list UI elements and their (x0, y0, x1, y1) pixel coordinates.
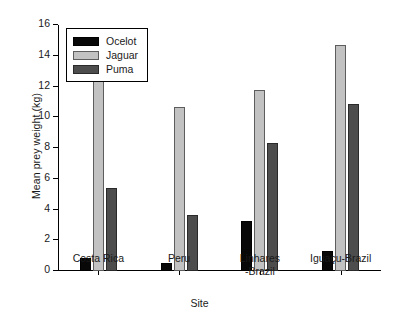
x-tick (341, 271, 342, 275)
x-tick-label: Iguaçu-Brazil (281, 252, 399, 265)
y-tick: 2 (53, 239, 58, 240)
bar-jaguar-1 (174, 107, 185, 272)
y-tick-label: 4 (44, 202, 50, 214)
y-tick-label: 16 (38, 17, 50, 29)
legend-label-ocelot: Ocelot (106, 35, 136, 47)
y-tick: 0 (53, 270, 58, 271)
bar-chart-figure: Mean prey weight (kg) 0246810121416 Cost… (0, 0, 399, 331)
y-tick-label: 0 (44, 263, 50, 275)
legend-swatch-icon-ocelot (73, 37, 99, 46)
x-tick (98, 271, 99, 275)
x-tick (179, 271, 180, 275)
y-tick-label: 6 (44, 171, 50, 183)
legend-item-ocelot: Ocelot (73, 34, 138, 48)
chart-legend: Ocelot Jaguar Puma (66, 28, 148, 82)
y-tick: 10 (53, 116, 58, 117)
bar-puma-3 (348, 104, 359, 271)
y-tick-label: 12 (38, 79, 50, 91)
legend-label-jaguar: Jaguar (106, 49, 138, 61)
y-tick-label: 8 (44, 140, 50, 152)
y-tick: 6 (53, 178, 58, 179)
legend-item-puma: Puma (73, 62, 138, 76)
legend-label-puma: Puma (106, 63, 133, 75)
y-axis-line (58, 25, 59, 271)
bar-jaguar-3 (335, 45, 346, 271)
y-tick-label: 10 (38, 109, 50, 121)
y-tick: 14 (53, 55, 58, 56)
bar-jaguar-0 (93, 79, 104, 271)
legend-swatch-icon-puma (73, 65, 99, 74)
bar-jaguar-2 (254, 90, 265, 271)
legend-item-jaguar: Jaguar (73, 48, 138, 62)
y-tick: 16 (53, 24, 58, 25)
x-axis-title: Site (0, 297, 399, 309)
y-tick: 4 (53, 209, 58, 210)
legend-swatch-icon-jaguar (73, 51, 99, 60)
y-tick: 8 (53, 147, 58, 148)
y-tick-label: 2 (44, 232, 50, 244)
y-tick: 12 (53, 86, 58, 87)
y-tick-label: 14 (38, 48, 50, 60)
